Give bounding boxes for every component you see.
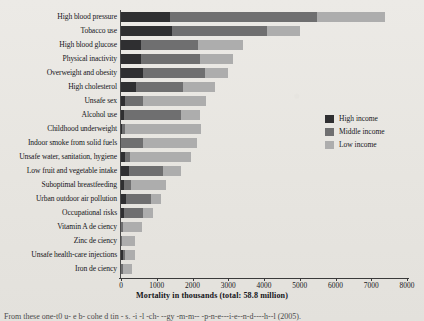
bar-segment-high-income [121,166,129,176]
category-label: Physical inactivity [0,54,117,64]
category-label: High cholesterol [0,82,117,92]
bar-segment-middle-income [129,166,163,176]
bar-segment-high-income [121,54,141,64]
bar-row [121,208,153,218]
legend-swatch-low-income [325,141,334,149]
bar-segment-low-income [151,194,161,204]
bar-segment-high-income [121,12,170,22]
category-label: Alcohol use [0,110,117,120]
bar-segment-low-income [123,264,132,274]
category-label: Vitamin A de ciency [0,222,117,232]
bar-row [121,250,135,260]
legend-label-high-income: High income [339,114,378,123]
bar-row [121,40,243,50]
bar-segment-middle-income [141,40,198,50]
x-tick-label: 7000 [356,281,386,290]
bar-segment-low-income [143,208,153,218]
legend-item-middle-income: Middle income [325,125,385,138]
bar-segment-low-income [122,236,135,246]
bar-row [121,82,215,92]
legend-swatch-high-income [325,115,334,123]
bar-segment-low-income [143,138,197,148]
bar-segment-low-income [183,82,215,92]
chart-legend: High income Middle income Low income [325,112,385,151]
legend-swatch-middle-income [325,128,334,136]
bar-segment-low-income [181,110,200,120]
bar-segment-high-income [121,68,143,78]
bar-segment-high-income [121,82,136,92]
x-axis-title: Mortality in thousands (total: 58.8 mill… [0,291,424,300]
bar-segment-low-income [125,124,201,134]
bar-row [121,166,181,176]
bar-segment-low-income [198,40,243,50]
bar-segment-low-income [130,152,191,162]
mortality-risk-factor-chart: High blood pressureTobacco useHigh blood… [0,0,424,321]
bar-row [121,26,300,36]
bar-row [121,222,142,232]
x-tick-label: 2000 [178,281,208,290]
bar-row [121,138,197,148]
x-tick-label: 0 [106,281,136,290]
bar-segment-middle-income [143,68,205,78]
legend-item-high-income: High income [325,112,385,125]
category-label: Zinc de ciency [0,236,117,246]
bar-segment-low-income [125,250,135,260]
category-label: Unsafe water, sanitation, hygiene [0,152,117,162]
legend-label-low-income: Low income [339,140,377,149]
x-tick-label: 5000 [285,281,315,290]
x-tick-label: 8000 [392,281,422,290]
bar-segment-low-income [123,222,142,232]
category-label: High blood pressure [0,12,117,22]
bar-row [121,152,191,162]
bar-segment-low-income [205,68,228,78]
bar-segment-middle-income [124,180,131,190]
category-label: Occupational risks [0,208,117,218]
bar-row [121,236,135,246]
bar-row [121,12,385,22]
bar-segment-middle-income [125,96,143,106]
x-tick-label: 6000 [321,281,351,290]
category-label: Tobacco use [0,26,117,36]
bar-segment-high-income [121,26,172,36]
bar-segment-low-income [200,54,233,64]
bar-segment-low-income [143,96,206,106]
bar-row [121,124,201,134]
bar-row [121,264,132,274]
x-tick-label: 4000 [249,281,279,290]
bar-segment-middle-income [136,82,183,92]
bar-segment-low-income [267,26,300,36]
category-label: Overweight and obesity [0,68,117,78]
bar-segment-low-income [163,166,181,176]
bar-segment-high-income [121,40,141,50]
bar-segment-middle-income [124,110,181,120]
x-tick-label: 3000 [213,281,243,290]
category-label: High blood glucose [0,40,117,50]
figure-caption: From these one-t0 u- e b- cohe d tin - s… [4,312,420,321]
bar-row [121,194,161,204]
bar-segment-middle-income [121,138,143,148]
bar-segment-middle-income [170,12,317,22]
bar-segment-middle-income [141,54,200,64]
x-tick-label: 1000 [142,281,172,290]
bar-row [121,54,233,64]
bar-segment-low-income [317,12,385,22]
legend-label-middle-income: Middle income [339,127,385,136]
bar-segment-low-income [131,180,167,190]
bar-row [121,110,200,120]
category-label: Urban outdoor air pollution [0,194,117,204]
bar-segment-middle-income [172,26,267,36]
bar-row [121,68,228,78]
category-label: Unsafe health-care injections [0,250,117,260]
category-label: Iron de ciency [0,264,117,274]
category-axis-labels: High blood pressureTobacco useHigh blood… [0,10,117,278]
category-label: Unsafe sex [0,96,117,106]
bar-row [121,180,166,190]
bar-segment-middle-income [126,194,152,204]
legend-item-low-income: Low income [325,138,385,151]
category-label: Indoor smoke from solid fuels [0,138,117,148]
bar-segment-middle-income [124,208,143,218]
category-label: Low fruit and vegetable intake [0,166,117,176]
category-label: Childhood underweight [0,124,117,134]
bar-row [121,96,206,106]
category-label: Suboptimal breastfeeding [0,180,117,190]
